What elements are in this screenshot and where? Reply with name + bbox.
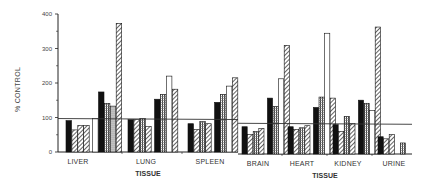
right-panel: BRAINHEARTKIDNEYURINE bbox=[238, 27, 412, 167]
bar bbox=[166, 76, 172, 152]
bar bbox=[215, 102, 221, 152]
bar bbox=[370, 111, 375, 154]
bar bbox=[299, 128, 304, 154]
x-axis-title-right: TISSUE bbox=[312, 172, 338, 179]
bar bbox=[93, 119, 99, 152]
bar bbox=[84, 125, 90, 152]
bar bbox=[248, 135, 253, 154]
bar bbox=[72, 130, 78, 152]
y-tick-label: 0 bbox=[49, 149, 53, 155]
bar bbox=[305, 126, 310, 154]
bar bbox=[242, 127, 247, 154]
bar bbox=[344, 116, 349, 154]
bar bbox=[128, 120, 134, 152]
bar-group-liver bbox=[66, 23, 122, 152]
bar-chart: 0100200300400 % CONTROL LIVERLUNGSPLEEN … bbox=[0, 0, 429, 188]
bar bbox=[146, 126, 152, 152]
x-axis-title-left: TISSUE bbox=[135, 170, 161, 177]
bar bbox=[319, 97, 324, 154]
category-label: HEART bbox=[290, 160, 315, 167]
bar-group-spleen bbox=[188, 78, 238, 152]
bar bbox=[279, 79, 284, 154]
y-axis: 0100200300400 bbox=[42, 11, 58, 155]
bar bbox=[267, 98, 272, 154]
left-panel: LIVERLUNGSPLEEN bbox=[58, 23, 238, 165]
bar bbox=[194, 130, 200, 152]
bar bbox=[104, 103, 110, 152]
category-label: LIVER bbox=[67, 158, 88, 165]
category-label: KIDNEY bbox=[334, 160, 361, 167]
bar-group-lung bbox=[128, 76, 178, 152]
bar bbox=[375, 27, 380, 154]
bar bbox=[288, 127, 293, 154]
y-tick-label: 400 bbox=[42, 11, 53, 17]
bar bbox=[400, 143, 405, 154]
bar bbox=[116, 23, 122, 152]
bar bbox=[221, 94, 227, 152]
category-label: SPLEEN bbox=[196, 158, 225, 165]
y-tick-label: 300 bbox=[42, 46, 53, 52]
bar bbox=[358, 100, 363, 154]
bar bbox=[253, 132, 258, 154]
bar bbox=[78, 125, 84, 152]
bar bbox=[273, 106, 278, 154]
bar bbox=[99, 92, 105, 152]
bar-group-brain bbox=[242, 45, 289, 154]
bar bbox=[313, 107, 318, 154]
bar-group-heart bbox=[288, 33, 335, 154]
bar bbox=[259, 128, 264, 154]
bar bbox=[333, 125, 338, 154]
bar bbox=[232, 78, 238, 152]
bar bbox=[389, 135, 394, 154]
bar bbox=[134, 120, 140, 152]
category-label: BRAIN bbox=[247, 160, 269, 167]
bar bbox=[155, 99, 161, 152]
bar bbox=[140, 119, 146, 152]
category-label: URINE bbox=[383, 160, 406, 167]
bar bbox=[350, 124, 355, 154]
bar-group-kidney bbox=[333, 27, 380, 154]
bar bbox=[364, 103, 369, 154]
bar bbox=[206, 124, 212, 152]
control-reference-line bbox=[238, 123, 412, 124]
category-label: LUNG bbox=[136, 158, 156, 165]
bar bbox=[384, 139, 389, 154]
bar bbox=[200, 122, 206, 152]
bar bbox=[339, 132, 344, 154]
y-axis-label: % CONTROL bbox=[14, 67, 21, 112]
control-reference-line bbox=[58, 119, 238, 120]
bar bbox=[378, 137, 383, 154]
bar bbox=[172, 89, 178, 152]
y-tick-label: 200 bbox=[42, 80, 53, 86]
bar bbox=[325, 33, 330, 154]
bar bbox=[188, 124, 194, 152]
bar bbox=[294, 130, 299, 154]
bar-group-urine bbox=[378, 135, 406, 154]
bar bbox=[110, 106, 116, 152]
bar bbox=[66, 121, 72, 152]
bar bbox=[161, 94, 167, 152]
y-tick-label: 100 bbox=[42, 115, 53, 121]
